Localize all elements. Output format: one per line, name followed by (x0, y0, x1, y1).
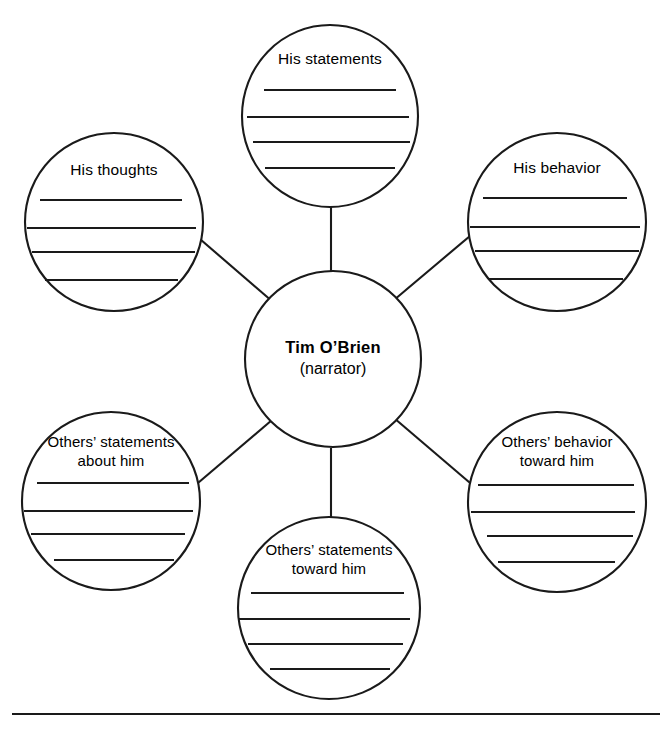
node-his-statements-label-line1: His statements (278, 50, 382, 67)
center-node-circle[interactable] (245, 271, 421, 447)
node-his-thoughts-label-line1: His thoughts (70, 161, 158, 178)
node-others-statements-toward-him-label-line1: Others’ statements (265, 541, 392, 558)
center-node-role: (narrator) (300, 360, 367, 377)
node-his-behavior[interactable]: His behavior (468, 133, 646, 311)
node-his-thoughts-label: His thoughts (70, 161, 158, 178)
graphic-organizer-page: His statementsHis thoughtsHis behaviorOt… (0, 0, 671, 730)
node-others-behavior-toward-him-label-line1: Others’ behavior (501, 433, 612, 450)
node-others-statements-about-him[interactable]: Others’ statementsabout him (22, 412, 200, 590)
center-node[interactable]: Tim O’Brien (narrator) (245, 271, 421, 447)
node-others-statements-toward-him-label-line2: toward him (292, 560, 366, 577)
node-others-statements-about-him-label-line1: Others’ statements (47, 433, 174, 450)
node-his-statements-label: His statements (278, 50, 382, 67)
node-his-behavior-label-line1: His behavior (513, 159, 600, 176)
node-others-behavior-toward-him[interactable]: Others’ behaviortoward him (468, 412, 646, 592)
node-his-thoughts-outline[interactable] (25, 133, 203, 311)
node-his-thoughts[interactable]: His thoughts (25, 133, 203, 311)
node-his-statements[interactable]: His statements (242, 25, 418, 207)
character-web-diagram: His statementsHis thoughtsHis behaviorOt… (0, 0, 671, 730)
center-node-name: Tim O’Brien (285, 338, 380, 356)
node-his-behavior-label: His behavior (513, 159, 600, 176)
node-others-statements-toward-him[interactable]: Others’ statementstoward him (238, 517, 420, 699)
node-others-statements-about-him-label-line2: about him (78, 452, 145, 469)
node-others-behavior-toward-him-label-line2: toward him (520, 452, 594, 469)
